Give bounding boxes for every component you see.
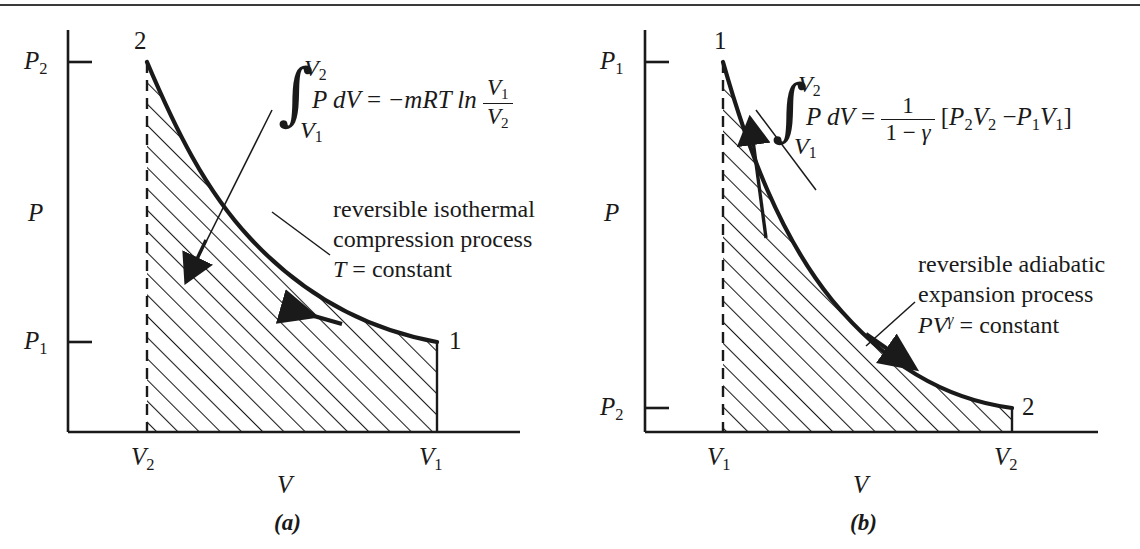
integral-lower-limit-a: V1 [300, 118, 323, 145]
y-tick-label-p1-b: P1 [600, 48, 624, 77]
leader-line-annotation-b [866, 302, 915, 346]
state-point-1-a: 1 [449, 328, 462, 353]
x-tick-label-v1-b: V1 [707, 444, 731, 473]
x-tick-label-v1-a: V1 [419, 444, 443, 473]
equals-b: = [861, 103, 875, 130]
x-axis-label-b: V [853, 472, 868, 497]
term-p2-b: P [949, 103, 964, 130]
state-point-1-b: 1 [714, 28, 727, 53]
panel-caption-b: (b) [850, 510, 877, 536]
integral-sign-group-a: ∫ V2 V1 [278, 62, 312, 148]
x-axis-label-a: V [277, 472, 292, 497]
state-point-2-b: 2 [1022, 394, 1035, 419]
panel-b: 1 2 P1 P2 P V1 V2 V ∫ V2 V1 P dV = 1 1 −… [570, 0, 1140, 549]
volume-ratio-fraction-a: V1 V2 [483, 75, 513, 131]
term-v1-b: V [1040, 103, 1055, 130]
integral-sign-group-b: ∫ V2 V1 [772, 78, 806, 164]
rhs-prefix-a: −mRT ln [387, 87, 476, 114]
bracket-open-b: [ [941, 103, 949, 130]
minus-b: − [1002, 103, 1016, 130]
y-tick-label-p1-a: P1 [24, 328, 48, 357]
panel-caption-a: (a) [274, 510, 301, 536]
y-tick-label-p2-a: P2 [24, 48, 48, 77]
panel-a: 2 1 P2 P1 P V2 V1 V ∫ V2 V1 P dV = −mRT … [0, 0, 570, 549]
annotation-line1-a: reversible isothermal [333, 195, 535, 225]
x-tick-label-v2-a: V2 [131, 444, 155, 473]
y-axis-label-a: P [28, 200, 43, 225]
integrand-a: P dV [312, 87, 361, 114]
equation-b: ∫ V2 V1 P dV = 1 1 − γ [P2V2 −P1V1] [772, 78, 1072, 164]
annotation-line2-a: compression process [333, 225, 535, 255]
bracket-close-b: ] [1064, 103, 1072, 130]
annotation-a: reversible isothermal compression proces… [333, 195, 535, 284]
gamma-fraction-b: 1 1 − γ [881, 93, 934, 146]
term-v2-b: V [973, 103, 988, 130]
annotation-line3-b: PVγ = constant [918, 310, 1105, 341]
annotation-line3-a: T = constant [333, 255, 535, 285]
integrand-b: P dV [806, 103, 855, 130]
equals-a: = [367, 87, 381, 114]
annotation-line1-b: reversible adiabatic [918, 250, 1105, 280]
annotation-line2-b: expansion process [918, 280, 1105, 310]
term-p1-b: P [1017, 103, 1032, 130]
annotation-b: reversible adiabatic expansion process P… [918, 250, 1105, 340]
integral-lower-limit-b: V1 [794, 134, 817, 161]
integral-upper-limit-a: V2 [304, 56, 327, 83]
equation-a: ∫ V2 V1 P dV = −mRT ln V1 V2 [278, 62, 513, 148]
x-tick-label-v2-b: V2 [994, 444, 1018, 473]
integral-upper-limit-b: V2 [798, 72, 821, 99]
y-tick-label-p2-b: P2 [600, 394, 624, 423]
y-axis-label-b: P [604, 200, 619, 225]
leader-line-annotation-a [272, 212, 330, 255]
state-point-2-a: 2 [134, 28, 147, 53]
